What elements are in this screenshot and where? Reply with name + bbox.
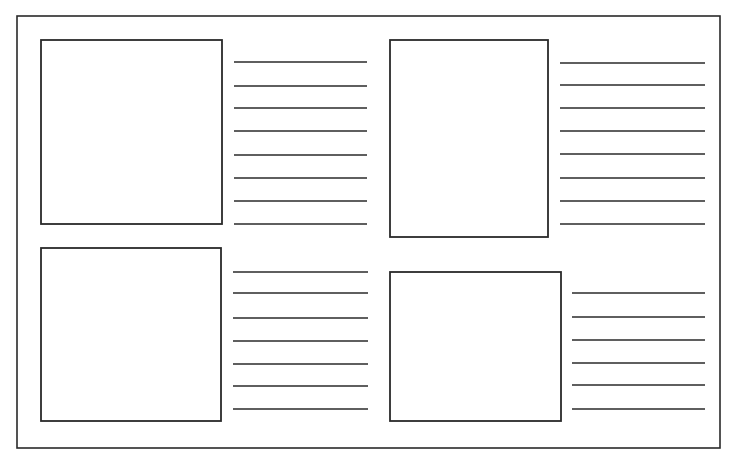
outer-frame <box>17 16 720 448</box>
layout-diagram <box>0 0 738 461</box>
image-placeholder-box <box>390 40 548 237</box>
panel-top-right <box>390 40 705 237</box>
image-placeholder-box <box>41 248 221 421</box>
image-placeholder-box <box>390 272 561 421</box>
image-placeholder-box <box>41 40 222 224</box>
panel-bottom-right <box>390 272 705 421</box>
panels-group <box>41 40 705 421</box>
panel-top-left <box>41 40 367 224</box>
panel-bottom-left <box>41 248 368 421</box>
